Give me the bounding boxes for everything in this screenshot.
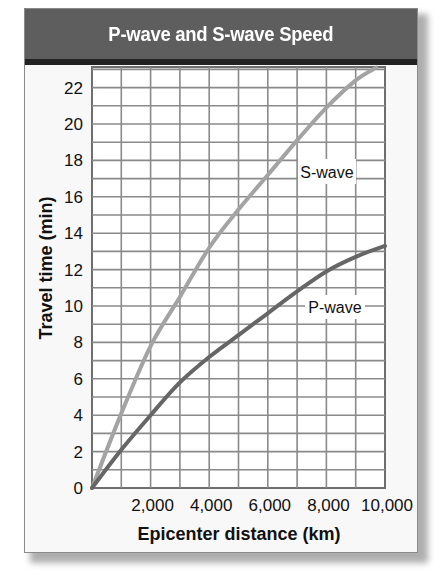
y-axis-label: Travel time (min)	[36, 196, 56, 339]
x-tick-label: 10,000	[361, 496, 413, 515]
y-tick-label: 20	[64, 115, 83, 134]
chart-grid	[92, 67, 385, 488]
x-axis-ticks: 2,0004,0006,0008,00010,000	[131, 496, 413, 515]
y-tick-label: 18	[64, 151, 83, 170]
y-tick-label: 0	[74, 479, 83, 498]
x-tick-label: 2,000	[131, 496, 174, 515]
y-axis-ticks: 0246810121416182022	[64, 79, 83, 498]
chart-svg: 0246810121416182022 2,0004,0006,0008,000…	[0, 0, 434, 573]
p-wave-label: P-wave	[308, 299, 361, 316]
x-tick-label: 6,000	[249, 496, 292, 515]
x-axis-label: Epicenter distance (km)	[137, 524, 340, 544]
y-tick-label: 12	[64, 261, 83, 280]
s-wave-label: S-wave	[300, 164, 353, 181]
y-tick-label: 22	[64, 79, 83, 98]
y-tick-label: 6	[74, 370, 83, 389]
y-tick-label: 8	[74, 333, 83, 352]
y-tick-label: 14	[64, 224, 83, 243]
x-tick-label: 8,000	[307, 496, 350, 515]
y-tick-label: 16	[64, 188, 83, 207]
y-tick-label: 2	[74, 443, 83, 462]
y-tick-label: 4	[74, 406, 83, 425]
y-tick-label: 10	[64, 297, 83, 316]
x-tick-label: 4,000	[190, 496, 233, 515]
